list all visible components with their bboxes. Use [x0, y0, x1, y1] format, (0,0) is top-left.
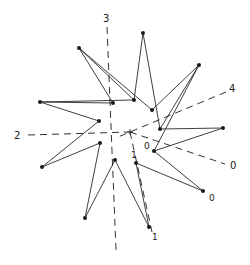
vertex-dot-P4	[38, 100, 42, 104]
edge-P18-P15	[136, 163, 149, 227]
labels: 3 4 2 0 0 1 0 1	[14, 13, 236, 242]
axis-label-4: 4	[229, 83, 235, 94]
edge-P1-P6	[134, 33, 143, 100]
edge-P1-P9	[143, 33, 160, 129]
point-label-1-bottom: 1	[152, 232, 158, 242]
vertex-dot-P18	[147, 225, 151, 229]
axis-line-3	[107, 27, 116, 250]
dashed-axes	[28, 27, 226, 250]
vertex-dot-P10	[221, 126, 225, 130]
edge-P17-P11	[85, 143, 100, 218]
point-label-0-inner: 0	[144, 141, 150, 151]
vertex-dot-P14	[113, 158, 117, 162]
star-edges	[40, 33, 223, 227]
vertex-dot-P9	[158, 127, 162, 131]
edge-P16-P15	[136, 163, 203, 191]
edge-P10-P9	[160, 128, 223, 129]
vertex-dot-P11	[98, 141, 102, 145]
vertex-dot-P17	[83, 216, 87, 220]
star-polygon-diagram: 3 4 2 0 0 1 0 1	[0, 0, 250, 265]
axis-label-2: 2	[14, 130, 20, 141]
vertex-dot-P15	[134, 161, 138, 165]
point-label-1-inner: 1	[131, 150, 137, 160]
vertex-dot-P13	[40, 165, 44, 169]
point-label-0-lower: 0	[209, 193, 215, 203]
axis-label-3: 3	[103, 13, 109, 24]
vertex-dot-P1	[141, 31, 145, 35]
edge-P4-P5	[40, 102, 113, 103]
vertices	[38, 31, 225, 229]
axis-line-2	[28, 132, 130, 135]
vertex-dot-P7	[150, 108, 154, 112]
edge-P4-P6	[40, 100, 134, 102]
vertex-dot-P6	[132, 98, 136, 102]
vertex-dot-P5	[111, 101, 115, 105]
edge-P17-P14	[85, 160, 115, 218]
vertex-dot-P3	[197, 63, 201, 67]
edge-P13-P11	[42, 143, 100, 167]
vertex-dot-P16	[201, 189, 205, 193]
vertex-dot-P2	[77, 46, 81, 50]
axis-label-0: 0	[230, 160, 236, 171]
edge-P13-P8	[42, 121, 99, 167]
edge-P16-P12	[154, 151, 203, 191]
vertex-dot-P8	[97, 119, 101, 123]
edge-P4-P8	[40, 102, 99, 121]
vertex-dot-P12	[152, 149, 156, 153]
